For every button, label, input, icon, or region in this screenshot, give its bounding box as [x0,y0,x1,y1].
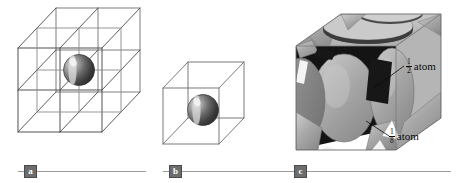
eighth-atom-callout: 1 8 atom [389,128,419,145]
half-fraction: 1 2 [406,58,412,75]
rule-line-b [182,171,291,172]
half-atom-label: atom [414,60,436,72]
caption-rule-a: a [18,164,146,178]
half-denominator: 2 [406,66,412,75]
half-atom-callout: 1 2 atom [406,58,436,75]
eighth-denominator: 8 [389,136,395,145]
top-back-atom-cap [357,2,423,24]
crystal-unit-cell-figure: 1 2 atom 1 8 atom a b c [0,0,461,183]
caption-rule-c: c [288,164,451,178]
caption-rule-b: b [163,164,291,178]
eighth-numerator: 1 [389,128,395,136]
eighth-atom-label: atom [397,130,419,142]
rule-line-c [307,171,451,172]
panel-label-c: c [294,165,307,178]
figure-artwork [0,0,461,183]
half-numerator: 1 [406,58,412,66]
panel-a-atom-sphere [64,55,95,86]
eighth-fraction: 1 8 [389,128,395,145]
rule-line-a [37,171,146,172]
panel-label-a: a [24,165,37,178]
panel-label-b: b [169,165,182,178]
panel-b-atom-sphere [188,95,219,126]
